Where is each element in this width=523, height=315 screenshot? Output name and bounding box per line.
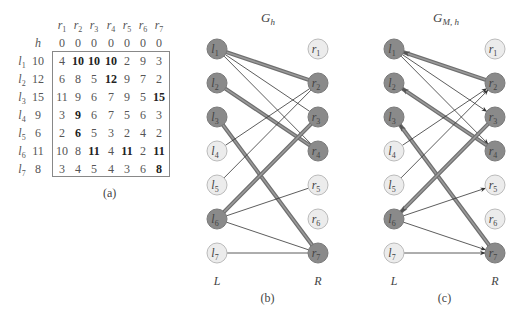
- edge-l1-r4: [224, 56, 311, 144]
- graph-g-h: l1l2l3l4l5l6l7r1r2r3r4r5r6r7GhLR(b): [207, 10, 328, 305]
- edge-highlight: [226, 52, 308, 80]
- graph-title-g-h: Gh: [261, 10, 275, 27]
- edge-l1-r4: [401, 56, 488, 144]
- bipartite-graphs: l1l2l3l4l5l6l7r1r2r3r4r5r6r7GhLR(b) l1l2…: [0, 0, 523, 315]
- edge-l5-r2: [224, 90, 311, 178]
- edge-highlight: [223, 125, 312, 245]
- edge-highlight: [400, 125, 489, 245]
- caption: (b): [261, 291, 275, 305]
- edge-l6-r5: [226, 188, 308, 216]
- side-label-R: R: [313, 274, 322, 288]
- side-label-R: R: [490, 274, 499, 288]
- caption: (c): [438, 291, 451, 305]
- edge-l1-r3: [402, 55, 486, 112]
- edge-l1-r3: [225, 55, 309, 112]
- side-label-L: L: [390, 274, 398, 288]
- edge-l6-r5: [403, 188, 485, 216]
- graph-g-m-h: l1l2l3l4l5l6l7r1r2r3r4r5r6r7GM, hLR(c): [384, 10, 505, 305]
- edge-l5-r2: [401, 90, 488, 178]
- edge-highlight: [403, 52, 485, 80]
- side-label-L: L: [213, 274, 221, 288]
- graph-title-g-m-h: GM, h: [433, 10, 459, 27]
